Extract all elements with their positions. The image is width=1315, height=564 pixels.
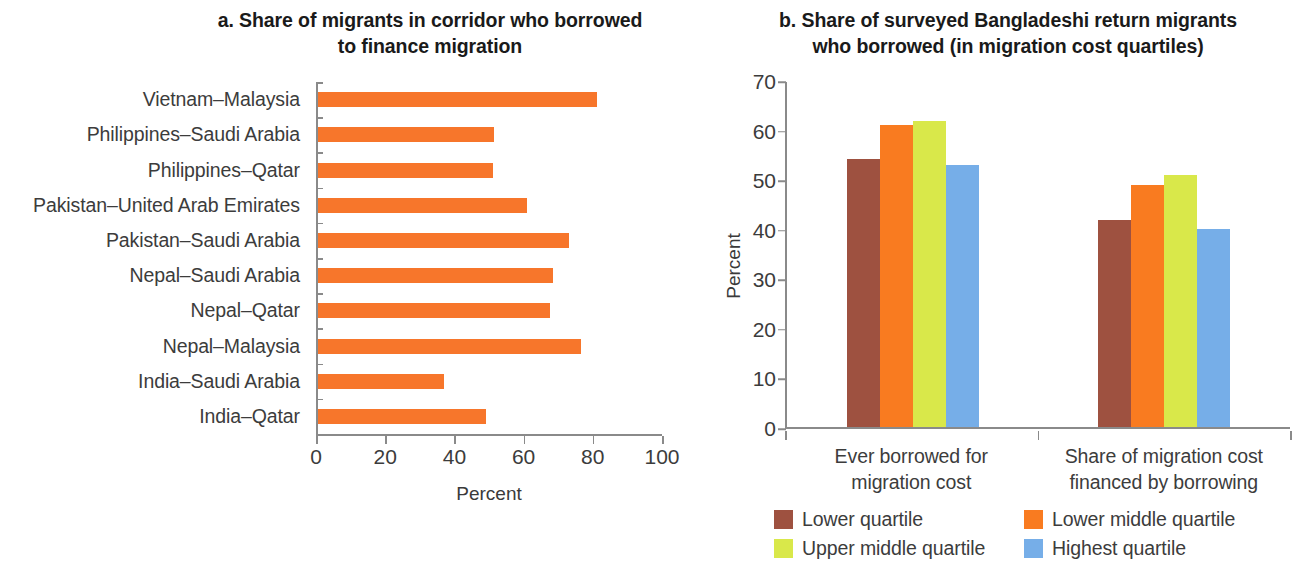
bar <box>1098 220 1131 427</box>
legend-swatch-icon <box>774 539 793 558</box>
category-label: Share of migration costfinanced by borro… <box>1038 444 1291 496</box>
y-tick-label: 40 <box>753 219 776 243</box>
bar-row <box>318 293 662 328</box>
x-tick <box>593 436 595 444</box>
bar <box>318 303 550 318</box>
bar <box>318 127 494 142</box>
bar-row <box>318 223 662 258</box>
bar <box>318 268 553 283</box>
figure-container: a. Share of migrants in corridor who bor… <box>0 0 1315 564</box>
y-tick-label: 10 <box>753 367 776 391</box>
x-tick <box>662 436 664 444</box>
panel-b-y-tick-labels: 010203040506070 <box>710 82 776 429</box>
category-label: Philippines–Qatar <box>0 152 308 187</box>
panel-b-bar-groups <box>787 82 1290 427</box>
bar-row <box>318 152 662 187</box>
bar-row <box>318 399 662 434</box>
legend-swatch-icon <box>1024 510 1043 529</box>
category-label: Philippines–Saudi Arabia <box>0 117 308 152</box>
category-label: Pakistan–United Arab Emirates <box>0 188 308 223</box>
bar-group <box>787 82 1039 427</box>
panel-b-title-line2: who borrowed (in migration cost quartile… <box>812 35 1203 57</box>
x-tick-label: 0 <box>310 445 322 469</box>
y-tick-label: 0 <box>764 417 776 441</box>
panel-b: b. Share of surveyed Bangladeshi return … <box>700 0 1315 564</box>
legend-item: Lower quartile <box>774 508 1024 531</box>
x-tick <box>524 436 526 444</box>
y-tick-label: 20 <box>753 318 776 342</box>
bar-row <box>318 117 662 152</box>
y-tick-label: 50 <box>753 169 776 193</box>
category-label: Ever borrowed formigration cost <box>785 444 1038 496</box>
y-tick-label: 60 <box>753 120 776 144</box>
legend-label: Lower quartile <box>802 508 923 531</box>
bar-row <box>318 258 662 293</box>
x-tick-label: 80 <box>581 445 604 469</box>
panel-b-title-line1: b. Share of surveyed Bangladeshi return … <box>779 9 1237 31</box>
x-tick <box>454 436 456 444</box>
legend-swatch-icon <box>1024 539 1043 558</box>
category-label: India–Saudi Arabia <box>0 364 308 399</box>
legend-item: Highest quartile <box>1024 537 1304 560</box>
bar <box>318 163 493 178</box>
panel-b-title: b. Share of surveyed Bangladeshi return … <box>718 8 1298 60</box>
category-label: Nepal–Saudi Arabia <box>0 258 308 293</box>
legend-swatch-icon <box>774 510 793 529</box>
panel-a-x-tick-labels: 020406080100 <box>316 445 662 473</box>
bar <box>1197 229 1230 427</box>
panel-a-title-line1: a. Share of migrants in corridor who bor… <box>218 9 643 31</box>
bar <box>913 121 946 427</box>
category-label: Nepal–Qatar <box>0 293 308 328</box>
bar <box>847 159 880 427</box>
panel-a-category-labels: Vietnam–MalaysiaPhilippines–Saudi Arabia… <box>0 82 308 434</box>
bar <box>318 374 444 389</box>
bar <box>946 165 979 427</box>
panel-a-plot-area <box>316 82 662 434</box>
category-label: Nepal–Malaysia <box>0 328 308 363</box>
bar <box>1131 185 1164 427</box>
bar <box>318 409 486 424</box>
panel-a-title: a. Share of migrants in corridor who bor… <box>150 8 710 60</box>
x-tick-label: 60 <box>512 445 535 469</box>
category-label: India–Qatar <box>0 399 308 434</box>
bar <box>880 125 913 427</box>
bar <box>318 339 581 354</box>
category-label: Pakistan–Saudi Arabia <box>0 223 308 258</box>
x-tick-label: 100 <box>644 445 679 469</box>
bar <box>318 233 569 248</box>
x-tick <box>316 436 318 444</box>
legend-item: Upper middle quartile <box>774 537 1024 560</box>
category-label: Vietnam–Malaysia <box>0 82 308 117</box>
bar-row <box>318 82 662 117</box>
bar <box>318 92 597 107</box>
bar <box>1164 175 1197 427</box>
x-tick <box>785 431 787 440</box>
panel-b-plot-area <box>785 82 1290 429</box>
bar-row <box>318 364 662 399</box>
legend-label: Upper middle quartile <box>802 537 985 560</box>
bar-group <box>1039 82 1291 427</box>
bar <box>318 198 527 213</box>
x-tick <box>1038 431 1040 440</box>
x-tick-label: 20 <box>374 445 397 469</box>
x-tick <box>1290 431 1292 440</box>
panel-a-title-line2: to finance migration <box>338 35 522 57</box>
panel-a-x-ticks <box>316 436 662 444</box>
y-tick-label: 30 <box>753 268 776 292</box>
x-tick <box>385 436 387 444</box>
legend-item: Lower middle quartile <box>1024 508 1304 531</box>
legend-label: Lower middle quartile <box>1052 508 1235 531</box>
bar-row <box>318 188 662 223</box>
panel-a-bars <box>318 82 662 434</box>
panel-a: a. Share of migrants in corridor who bor… <box>0 0 700 564</box>
x-tick-label: 40 <box>443 445 466 469</box>
panel-b-legend: Lower quartileLower middle quartileUpper… <box>774 508 1304 560</box>
panel-a-x-axis-title: Percent <box>316 483 662 505</box>
legend-label: Highest quartile <box>1052 537 1186 560</box>
y-tick-label: 70 <box>753 70 776 94</box>
bar-row <box>318 328 662 363</box>
panel-b-category-labels: Ever borrowed formigration costShare of … <box>785 444 1290 496</box>
